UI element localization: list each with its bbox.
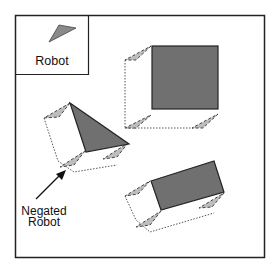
negated-robot-triangle <box>125 46 151 60</box>
negated-robot-triangle <box>192 114 218 128</box>
negated-robot-triangle <box>125 181 150 196</box>
negated-robot-triangle <box>60 151 85 167</box>
legend-label: Robot <box>18 55 86 67</box>
negated-robot-label-line2: Robot <box>14 217 74 228</box>
square-obstacle <box>152 46 218 109</box>
triangle-obstacle <box>70 103 129 152</box>
negated-robot-triangle <box>136 211 161 227</box>
negated-robot-label: Negated Robot <box>14 206 74 228</box>
square-obstacle-group <box>125 46 218 128</box>
negated-robot-triangle <box>44 103 70 118</box>
annotation-arrow <box>36 170 66 199</box>
rectangle-obstacle-group <box>125 161 224 232</box>
triangle-obstacle-group <box>44 103 129 172</box>
negated-robot-triangle <box>125 115 151 128</box>
robot-triangle-icon <box>49 25 76 42</box>
